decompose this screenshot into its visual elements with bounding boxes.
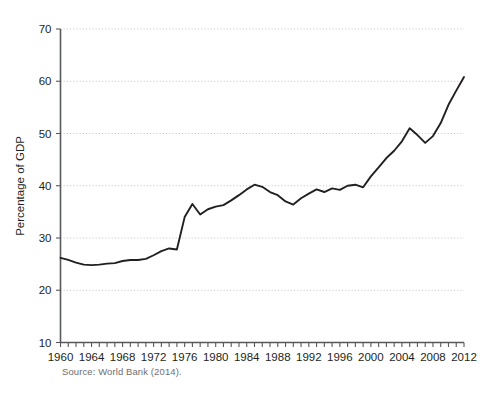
y-axis-title: Percentage of GDP <box>14 136 26 236</box>
chart-figure: 10203040506070 1960196419681972197619801… <box>0 0 493 398</box>
x-tick-label: 1988 <box>265 351 291 363</box>
y-tick-labels: 10203040506070 <box>39 23 52 349</box>
y-tick-label: 40 <box>39 180 52 192</box>
x-tick-label: 1992 <box>296 351 322 363</box>
x-tick-label: 2000 <box>358 351 384 363</box>
x-tick-label: 1984 <box>234 351 260 363</box>
x-tick-label: 1972 <box>141 351 167 363</box>
x-tick-label: 1960 <box>48 351 74 363</box>
x-tick-label: 2004 <box>389 351 415 363</box>
y-tick-label: 30 <box>39 232 52 244</box>
y-tick-label: 50 <box>39 128 52 140</box>
series-line-percentage-of-gdp <box>61 77 465 265</box>
y-tick-label: 10 <box>39 337 52 349</box>
x-tick-label: 2008 <box>420 351 446 363</box>
x-axis: 1960196419681972197619801984198819921996… <box>48 343 477 363</box>
x-tick-label: 1980 <box>203 351 229 363</box>
x-tick-label: 2012 <box>451 351 477 363</box>
gridlines-group <box>61 29 465 290</box>
x-tick-label: 1968 <box>110 351 136 363</box>
source-note: Source: World Bank (2014). <box>62 366 182 377</box>
x-tick-label: 1976 <box>172 351 198 363</box>
y-tick-label: 70 <box>39 23 52 35</box>
x-tick-label: 1964 <box>79 351 105 363</box>
y-tick-label: 60 <box>39 75 52 87</box>
x-tick-labels: 1960196419681972197619801984198819921996… <box>48 351 477 363</box>
y-tick-label: 20 <box>39 284 52 296</box>
line-chart-canvas: 10203040506070 1960196419681972197619801… <box>0 0 493 398</box>
y-axis: 10203040506070 <box>39 23 61 349</box>
x-tick-label: 1996 <box>327 351 353 363</box>
